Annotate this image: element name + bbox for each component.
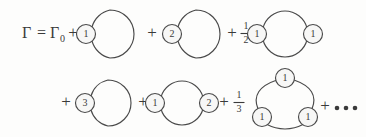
- term-3-upper-arc: [263, 11, 307, 28]
- term-5-lower-arc: [161, 109, 203, 125]
- plus-sign-3: +: [227, 23, 237, 42]
- term-6-arc-left: [256, 80, 277, 109]
- term-1-diagram: 1: [77, 10, 135, 58]
- term-1-loop: [92, 10, 134, 58]
- half-numerator: 1: [244, 20, 249, 31]
- plus-sign-2: +: [147, 23, 157, 42]
- term-1-vertex-label: 1: [84, 28, 89, 39]
- third-denominator: 3: [237, 103, 242, 114]
- term-4-diagram: 3: [76, 80, 132, 126]
- term-3-lower-arc: [263, 40, 307, 57]
- gamma-zero-symbol: Γ: [50, 24, 59, 41]
- term-6-diagram: 1 1 1: [253, 69, 318, 130]
- term-5-upper-arc: [161, 81, 203, 97]
- gamma-expansion-diagram: Γ = Γ 0 + 1 + 2 + 1 2: [0, 0, 366, 137]
- term-3-vertex-left-label: 1: [255, 28, 260, 39]
- term-2-diagram: 2: [163, 10, 221, 58]
- term-5-vertex-right-label: 2: [207, 97, 212, 108]
- figure-canvas: Γ = Γ 0 + 1 + 2 + 1 2: [0, 0, 366, 137]
- equals-sign: =: [37, 24, 46, 41]
- term-4-loop: [91, 80, 131, 126]
- term-3-vertex-right-label: 1: [311, 28, 316, 39]
- term-3-diagram: 1 1: [248, 11, 323, 57]
- term-2-vertex-label: 2: [170, 28, 175, 39]
- plus-sign-4: +: [61, 92, 71, 111]
- gamma-zero-subscript: 0: [60, 33, 65, 44]
- term-4-vertex-label: 3: [83, 97, 88, 108]
- term-6-vertex-top-label: 1: [283, 72, 288, 83]
- term-5-vertex-left-label: 1: [153, 97, 158, 108]
- plus-sign-7: +: [320, 96, 330, 115]
- ellipsis-dot-2: [344, 106, 349, 111]
- term-6-arc-right: [294, 80, 314, 109]
- prefactor-one-third: 1 3: [234, 89, 245, 114]
- third-numerator: 1: [237, 89, 242, 100]
- term-6-vertex-bottom-right-label: 1: [306, 111, 311, 122]
- ellipsis-dot-3: [353, 106, 358, 111]
- term-6-arc-bottom: [266, 124, 304, 129]
- gamma-symbol: Γ: [22, 24, 31, 41]
- term-6-vertex-bottom-left-label: 1: [260, 111, 265, 122]
- ellipsis-dot-1: [335, 106, 340, 111]
- term-2-loop: [178, 10, 220, 58]
- plus-sign-6: +: [219, 92, 229, 111]
- ellipsis: [335, 106, 358, 111]
- term-5-diagram: 1 2: [146, 81, 219, 125]
